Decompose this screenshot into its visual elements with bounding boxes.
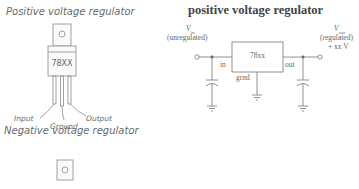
input-terminal-icon <box>195 55 199 59</box>
chip-label: 78xx <box>250 51 265 60</box>
regulator-schematic <box>0 0 359 189</box>
vout-note: (regulated) <box>320 33 353 42</box>
pin-out-label: out <box>285 60 295 69</box>
pin-gnd-label: grnd <box>236 73 250 82</box>
vin-note: (unregulated) <box>167 33 207 42</box>
output-terminal-icon <box>318 55 322 59</box>
vout-value: + xx V <box>328 42 349 51</box>
pin-in-label: in <box>220 60 226 69</box>
